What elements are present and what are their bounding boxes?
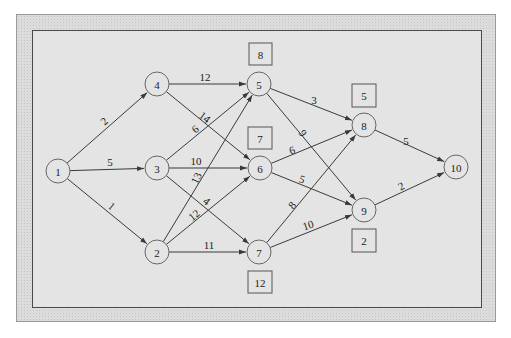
edge-weight-label: 3 [311,94,317,106]
node-8: 8 [352,113,376,137]
edge-weight-label: 8 [286,199,299,211]
edge-8-10 [375,130,444,162]
edge-1-2 [67,179,147,244]
edge-weight-label: 13 [188,170,204,185]
edge-3-7 [166,176,249,244]
slack-value: 7 [257,133,263,145]
edge-weight-label: 1 [106,200,118,213]
edge-weight-label: 12 [200,71,211,83]
node-label: 1 [55,166,61,178]
edge-weight-label: 2 [396,179,406,192]
edge-weight-label: 5 [403,135,409,147]
node-6: 6 [248,156,272,180]
edge-weight-label: 11 [204,239,215,251]
node-label: 3 [154,163,160,175]
slack-box-node-7: 12 [248,271,272,293]
node-label: 10 [451,162,463,174]
edge-weight-label: 12 [186,207,202,223]
edge-3-5 [166,92,249,160]
node-label: 9 [361,205,367,217]
node-7: 7 [247,240,271,264]
edge-weight-label: 5 [107,156,113,168]
slack-value: 2 [361,235,367,247]
node-label: 8 [361,120,367,132]
node-label: 5 [256,79,262,91]
node-4: 4 [145,72,169,96]
slack-value: 5 [361,90,367,102]
diagram-stage: 25112146104131211396581052 871252 123456… [0,0,511,338]
network-graph: 25112146104131211396581052 871252 123456… [0,0,511,338]
node-1: 1 [46,159,70,183]
slack-box-node-8: 5 [352,84,376,107]
node-3: 3 [145,156,169,180]
node-2: 2 [145,240,169,264]
edge-weight-label: 6 [287,143,297,156]
slack-value: 12 [255,277,266,289]
slack-value: 8 [258,49,264,61]
edge-6-8 [271,130,352,163]
edge-9-10 [375,173,444,205]
edge-1-3 [70,168,144,170]
node-label: 7 [256,247,262,259]
edge-weight-label: 2 [98,115,110,128]
node-10: 10 [444,155,468,179]
nodes-layer: 12345678910 [46,72,468,264]
node-9: 9 [352,198,376,222]
node-5: 5 [247,72,271,96]
node-label: 6 [257,163,263,175]
edge-weight-label: 5 [298,172,307,185]
edge-1-4 [67,93,147,163]
edge-weight-label: 10 [191,155,203,167]
node-label: 4 [154,79,160,91]
slack-box-node-6: 7 [248,127,272,149]
slack-box-node-9: 2 [352,229,376,252]
node-label: 2 [154,247,160,259]
slack-box-node-5: 8 [249,43,272,65]
